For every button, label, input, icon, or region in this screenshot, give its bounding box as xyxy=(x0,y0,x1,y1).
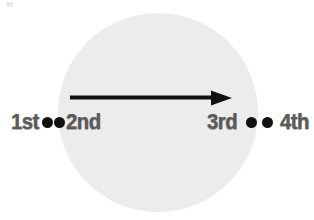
ordinal-label-2nd: 2nd xyxy=(66,110,101,134)
dot-icon xyxy=(246,117,257,128)
scan-artifact xyxy=(6,2,13,7)
diagram-canvas: 1st 2nd 3rd 4th xyxy=(0,0,314,220)
ordinal-label-1st: 1st xyxy=(11,110,39,134)
label-group-right: 3rd 4th xyxy=(207,110,311,134)
dot-icon xyxy=(54,117,65,128)
label-group-left: 1st 2nd xyxy=(11,110,104,134)
separator-dots-right xyxy=(246,117,273,128)
dot-icon xyxy=(262,117,273,128)
dot-icon xyxy=(42,117,53,128)
separator-dots-left xyxy=(42,117,65,128)
ordinal-label-3rd: 3rd xyxy=(207,110,237,134)
ordinal-label-4th: 4th xyxy=(280,110,309,134)
